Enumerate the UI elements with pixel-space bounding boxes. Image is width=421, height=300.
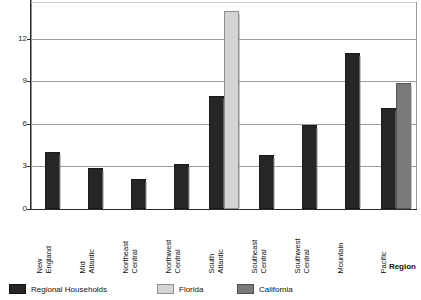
bars-layer [31,0,417,210]
bar-chart: 036912 NewEnglandMidAtlanticNortheastCen… [0,0,421,300]
legend-item-florida[interactable]: Florida [157,283,203,295]
x-category-line2: Central [259,249,268,273]
bar-shadow [410,86,412,208]
bar-shadow [145,182,147,208]
x-category-line2: Central [174,249,183,273]
y-tick-label-3: 3 [0,162,27,170]
x-axis-line [31,209,417,210]
bar-shadow [238,14,240,208]
x-category-line2: Central [131,249,140,273]
bar-shadow [59,155,61,208]
bar-pacific-regional-households [381,108,396,209]
bar-south-atlantic-regional-households [209,96,224,209]
x-category-line2: Central [302,249,311,273]
bar-pacific-california [396,83,411,209]
y-tick-label-0: 0 [0,205,27,213]
bar-shadow [359,56,361,208]
bar-shadow [102,171,104,208]
legend-swatch-california [237,284,254,294]
bar-southeast-central-regional-households [259,155,274,209]
bar-shadow [188,167,190,208]
legend-item-california[interactable]: California [237,283,293,295]
legend-swatch-regional-households [9,284,26,294]
x-category-line1: Southwest [293,238,302,273]
bar-shadow [316,128,318,208]
x-axis-category-labels: NewEnglandMidAtlanticNortheastCentralNor… [31,211,417,273]
legend-label-california: California [259,285,293,294]
y-tick-label-6: 6 [0,120,27,128]
legend-label-regional-households: Regional Households [31,285,107,294]
chart-legend: Regional Households Florida California [9,283,421,296]
x-category-line2: Atlantic [217,248,226,273]
bar-shadow [273,158,275,208]
x-axis-title: Region [389,262,416,271]
x-category-line1: Mountain [336,242,345,273]
bar-south-atlantic-florida [224,11,239,209]
y-tick-label-9: 9 [0,77,27,85]
bar-northeast-central-regional-households [131,179,146,209]
bar-mountain-regional-households [345,53,360,209]
bar-northwest-central-regional-households [174,164,189,209]
x-category-line2: England [45,245,54,273]
bar-mid-atlantic-regional-households [88,168,103,209]
bar-new-england-regional-households [45,152,60,209]
legend-label-florida: Florida [179,285,203,294]
legend-swatch-florida [157,284,174,294]
legend-item-regional-households[interactable]: Regional Households [9,283,107,295]
y-tick-label-12: 12 [0,35,27,43]
bar-southwest-central-regional-households [302,125,317,209]
x-category-line1: Pacific [379,251,388,273]
x-category-line2: Atlantic [88,248,97,273]
